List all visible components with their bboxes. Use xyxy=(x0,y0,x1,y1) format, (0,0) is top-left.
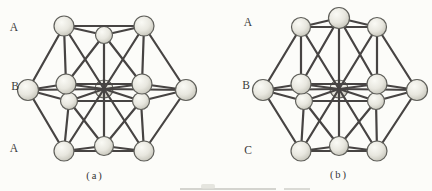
figure-b xyxy=(253,8,428,162)
atom-tl xyxy=(292,18,311,37)
atom-ne xyxy=(367,74,387,94)
scan-artifact-line xyxy=(284,188,310,190)
atom-e xyxy=(176,80,197,101)
layer-label-a-bottom: A xyxy=(6,142,22,155)
layer-label-b-top: A xyxy=(240,16,256,29)
atom-bl xyxy=(54,141,74,161)
atom-nw xyxy=(56,74,76,94)
atom-tl xyxy=(54,16,74,36)
scan-artifact-line xyxy=(180,188,276,190)
scan-artifact-smudge xyxy=(201,184,215,189)
figure-a-caption: (a) xyxy=(71,170,119,181)
layer-label-b-middle: B xyxy=(238,79,254,92)
atom-tr xyxy=(368,18,387,37)
atom-bc xyxy=(330,137,349,156)
atom-sw xyxy=(61,93,78,110)
page-background: A B A A B C (a) (b) xyxy=(0,0,432,191)
atom-sw xyxy=(296,93,313,110)
atom-br xyxy=(134,141,154,161)
atom-se xyxy=(368,93,385,110)
atom-w xyxy=(253,80,274,101)
atom-bc xyxy=(95,137,114,156)
figure-a xyxy=(18,16,197,161)
layer-label-b-bottom: C xyxy=(240,144,256,157)
atom-br xyxy=(367,141,387,161)
atom-se xyxy=(133,93,150,110)
atom-e xyxy=(407,80,428,101)
layer-label-a-top: A xyxy=(6,21,22,34)
atom-tc xyxy=(329,8,350,29)
layer-label-a-middle: B xyxy=(7,80,23,93)
atom-tr xyxy=(134,16,154,36)
atom-bl xyxy=(291,141,311,161)
stacking-diagram-svg xyxy=(0,0,432,191)
atom-ne xyxy=(132,74,152,94)
figure-b-caption: (b) xyxy=(315,169,363,180)
atom-tc xyxy=(96,27,113,44)
atom-nw xyxy=(291,74,311,94)
